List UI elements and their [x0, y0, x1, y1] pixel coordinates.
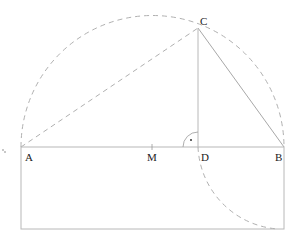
label-a: A [25, 151, 33, 163]
right-angle-dot [190, 139, 192, 141]
edge-mark-2 [4, 151, 5, 152]
segment-cb [198, 28, 284, 147]
label-b: B [275, 151, 282, 163]
label-m: M [147, 151, 157, 163]
label-d: D [201, 151, 209, 163]
thales-semicircle [21, 15, 284, 147]
label-c: C [200, 15, 207, 27]
segment-ac [21, 28, 198, 147]
arc-d-to-bottom [198, 147, 278, 229]
geometry-diagram: A M D B C [0, 0, 297, 241]
edge-mark [2, 149, 3, 150]
